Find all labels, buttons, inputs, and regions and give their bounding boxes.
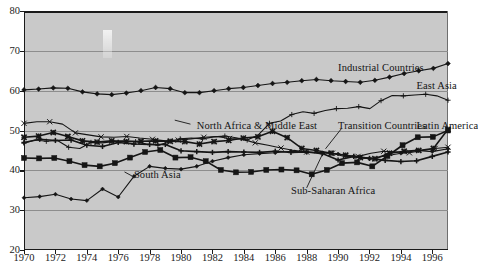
gridline xyxy=(25,210,448,211)
scan-artifact xyxy=(103,30,112,58)
annotation-south-asia: South Asia xyxy=(134,170,181,181)
gridline xyxy=(25,51,448,52)
x-axis-tick-label: 1992 xyxy=(359,253,380,264)
y-axis-tick-mark xyxy=(20,131,24,132)
plot-frame-top xyxy=(25,11,448,13)
x-axis-tick-mark xyxy=(24,250,25,254)
x-axis-tick-label: 1972 xyxy=(45,253,66,264)
y-axis-tick-label: 80 xyxy=(0,6,20,17)
annotation-transition-countries: Transition Countries xyxy=(338,121,426,132)
x-axis-tick-mark xyxy=(275,250,276,254)
y-axis-tick-mark xyxy=(20,11,24,12)
annotation-industrial-countries: Industrial Countries xyxy=(338,63,424,74)
x-axis-tick-mark xyxy=(432,250,433,254)
y-axis-tick-label: 60 xyxy=(0,86,20,97)
x-axis-tick-label: 1982 xyxy=(202,253,223,264)
x-axis-tick-label: 1986 xyxy=(265,253,286,264)
x-axis-tick-mark xyxy=(307,250,308,254)
gridline xyxy=(25,170,448,171)
x-axis-tick-mark xyxy=(244,250,245,254)
x-axis-tick-mark xyxy=(181,250,182,254)
x-axis-tick-mark xyxy=(150,250,151,254)
x-axis-tick-label: 1990 xyxy=(328,253,349,264)
y-axis-tick-mark xyxy=(20,210,24,211)
y-axis-tick-label: 30 xyxy=(0,205,20,216)
x-axis-tick-label: 1988 xyxy=(296,253,317,264)
x-axis-tick-mark xyxy=(55,250,56,254)
x-axis-tick-label: 1978 xyxy=(139,253,160,264)
x-axis-tick-label: 1976 xyxy=(108,253,129,264)
y-axis-tick-mark xyxy=(20,170,24,171)
y-axis-tick-mark xyxy=(20,91,24,92)
y-axis-tick-mark xyxy=(20,51,24,52)
x-axis-tick-label: 1984 xyxy=(233,253,254,264)
x-axis-tick-mark xyxy=(118,250,119,254)
y-axis-tick-label: 40 xyxy=(0,165,20,176)
x-axis-tick-label: 1996 xyxy=(422,253,443,264)
annotation-east-asia: East Asia xyxy=(417,81,457,92)
x-axis-tick-label: 1970 xyxy=(14,253,35,264)
x-axis-tick-label: 1994 xyxy=(390,253,411,264)
x-axis-tick-mark xyxy=(212,250,213,254)
annotation-sub-saharan-africa: Sub-Saharan Africa xyxy=(291,186,375,197)
y-axis-tick-label: 70 xyxy=(0,46,20,57)
x-axis-tick-mark xyxy=(87,250,88,254)
annotation-latin-america: Latin America xyxy=(417,121,478,132)
gridline xyxy=(25,91,448,92)
annotation-north-africa-middle-east: North Africa & Middle East xyxy=(197,121,317,132)
x-axis-tick-mark xyxy=(401,250,402,254)
x-axis-tick-label: 1980 xyxy=(171,253,192,264)
x-axis-tick-label: 1974 xyxy=(76,253,97,264)
x-axis-tick-mark xyxy=(338,250,339,254)
x-axis-tick-mark xyxy=(369,250,370,254)
y-axis-tick-label: 50 xyxy=(0,126,20,137)
